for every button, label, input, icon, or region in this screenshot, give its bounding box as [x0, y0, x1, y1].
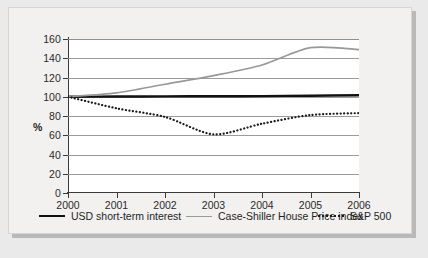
series-line	[68, 95, 359, 97]
x-axis-tick	[311, 193, 312, 198]
legend-item[interactable]: USD short-term interest	[39, 208, 181, 224]
chart-card: 160140120100806040200 % 2000200120022003…	[8, 7, 412, 234]
y-axis-tick-label: 20	[49, 169, 61, 179]
legend-swatch-icon	[186, 211, 212, 221]
x-axis-tick	[165, 193, 166, 198]
y-axis-tick-label: 100	[43, 92, 61, 102]
data-series-layer	[68, 39, 359, 193]
y-axis-tick-label: 120	[43, 73, 61, 83]
chart-legend: USD short-term interestCase-Shiller Hous…	[9, 208, 413, 228]
x-axis-tick	[68, 193, 69, 198]
legend-item[interactable]: S&P 500	[318, 208, 391, 224]
legend-label: S&P 500	[350, 210, 391, 222]
screenshot-root: 160140120100806040200 % 2000200120022003…	[0, 0, 428, 258]
legend-swatch-icon	[39, 211, 65, 221]
y-axis-labels: 160140120100806040200	[29, 39, 61, 193]
legend-swatch-icon	[318, 211, 344, 221]
y-axis-tick-label: 80	[49, 111, 61, 121]
y-axis-tick-label: 60	[49, 130, 61, 140]
series-line	[68, 47, 359, 97]
y-axis-tick-label: 40	[49, 150, 61, 160]
x-axis-tick	[214, 193, 215, 198]
y-axis-tick-label: 160	[43, 34, 61, 44]
x-axis-tick	[359, 193, 360, 198]
legend-label: USD short-term interest	[71, 210, 181, 222]
x-axis-tick	[262, 193, 263, 198]
line-chart: 160140120100806040200 % 2000200120022003…	[9, 8, 413, 235]
y-axis-unit-label: %	[33, 121, 42, 133]
y-axis-tick-label: 140	[43, 53, 61, 63]
y-axis-tick-label: 0	[55, 188, 61, 198]
series-line	[68, 97, 359, 135]
x-axis-tick	[117, 193, 118, 198]
